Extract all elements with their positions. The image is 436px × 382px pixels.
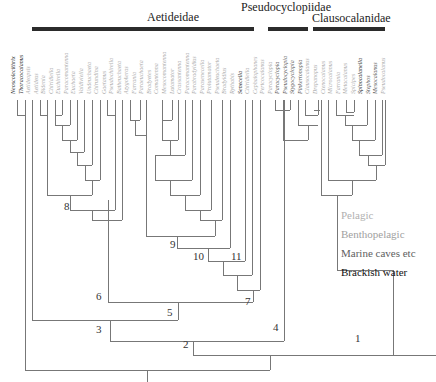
node-number: 11: [231, 250, 242, 262]
legend-entry: Benthopelagic: [341, 228, 405, 240]
node-number: 2: [183, 338, 189, 350]
node-number: 7: [245, 295, 251, 307]
node-number: 3: [96, 323, 102, 335]
node-number: 5: [167, 306, 173, 318]
node-number: 10: [193, 250, 204, 262]
node-number: 6: [96, 290, 102, 302]
legend-entry: Marine caves etc: [341, 247, 416, 259]
node-number: 9: [170, 238, 176, 250]
node-number: 8: [64, 200, 70, 212]
phylogenetic-tree: [0, 0, 436, 382]
node-number: 4: [273, 321, 279, 333]
legend-entry: Brackish water: [341, 266, 407, 278]
legend-entry: Pelagic: [341, 209, 373, 221]
node-number: 1: [355, 332, 361, 344]
